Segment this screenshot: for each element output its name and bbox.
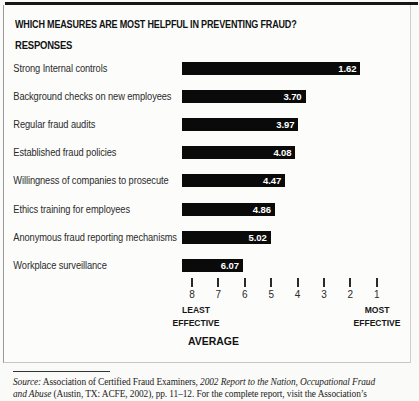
bar: 3.97 [182, 118, 298, 131]
bar-row: Anonymous fraud reporting mechanisms5.02 [4, 223, 410, 251]
source-text-1: Association of Certified Fraud Examiners… [43, 377, 198, 387]
bar: 3.70 [182, 90, 306, 103]
bar-value-label: 4.08 [273, 146, 291, 159]
footnote-rule [13, 371, 110, 372]
bar-category-label: Workplace surveillance [4, 260, 170, 271]
bar-row: Ethics training for employees4.86 [4, 195, 410, 223]
bar-rows: Strong Internal controls1.62Background c… [4, 54, 410, 280]
source-label: Source: [13, 377, 41, 387]
bar-category-label: Anonymous fraud reporting mechanisms [4, 232, 170, 243]
bar-track: 3.97 [182, 118, 410, 131]
axis-tick-label: 2 [348, 289, 354, 300]
bar: 4.08 [182, 146, 295, 159]
bar: 1.62 [182, 62, 360, 75]
bar-row: Background checks on new employees3.70 [4, 82, 410, 110]
source-title-line2: and Abuse [13, 389, 51, 399]
bar-track: 1.62 [182, 62, 410, 75]
axis-tick-label: 4 [295, 289, 301, 300]
bar-row: Willingness of companies to prosecute4.4… [4, 167, 410, 195]
bar: 4.86 [182, 203, 275, 216]
chart-title: WHICH MEASURES ARE MOST HELPFUL IN PREVE… [15, 18, 297, 30]
axis-tick-label: 5 [268, 289, 274, 300]
bar-track: 6.07 [182, 259, 410, 272]
bar-value-label: 6.07 [221, 259, 239, 272]
bar-category-label: Willingness of companies to prosecute [4, 175, 170, 186]
bar-category-label: Strong Internal controls [4, 63, 170, 74]
bar-value-label: 1.62 [338, 62, 356, 75]
source-text-2: (Austin, TX: ACFE, 2002), pp. 11–12. For… [54, 389, 367, 399]
chart-frame: WHICH MEASURES ARE MOST HELPFUL IN PREVE… [3, 5, 411, 363]
bar-value-label: 5.02 [249, 231, 267, 244]
bar: 5.02 [182, 231, 271, 244]
bar-category-label: Established fraud policies [4, 147, 170, 158]
bar: 4.47 [182, 174, 285, 187]
axis-tick-label: 1 [374, 289, 380, 300]
bar-track: 4.47 [182, 174, 410, 187]
source-title-line1: 2002 Report to the Nation, Occupational … [200, 377, 375, 387]
bar-value-label: 3.70 [283, 90, 301, 103]
bar-row: Strong Internal controls1.62 [4, 54, 410, 82]
bar-value-label: 4.47 [263, 174, 281, 187]
axis-label-most-effective: MOST EFFECTIVE [351, 304, 402, 330]
scanned-figure-page: WHICH MEASURES ARE MOST HELPFUL IN PREVE… [0, 0, 419, 401]
bar-value-label: 3.97 [276, 118, 294, 131]
bar-category-label: Background checks on new employees [4, 91, 170, 102]
source-footer: Source: Association of Certified Fraud E… [13, 371, 413, 400]
bar-category-label: Ethics training for employees [4, 204, 170, 215]
bar-track: 4.08 [182, 146, 410, 159]
bar-row: Workplace surveillance6.07 [4, 251, 410, 279]
axis-tick-label: 6 [242, 289, 248, 300]
axis-label-least-effective: LEAST EFFECTIVE [170, 304, 221, 330]
axis-title-average: AVERAGE [188, 335, 239, 347]
bar-category-label: Regular fraud audits [4, 119, 170, 130]
bar-row: Regular fraud audits3.97 [4, 110, 410, 138]
bar-value-label: 4.86 [253, 203, 271, 216]
bar-row: Established fraud policies4.08 [4, 139, 410, 167]
bar-track: 5.02 [182, 231, 410, 244]
source-note: Source: Association of Certified Fraud E… [13, 376, 413, 400]
bar-track: 4.86 [182, 203, 410, 216]
axis-tick-label: 8 [189, 289, 195, 300]
bar-track: 3.70 [182, 90, 410, 103]
axis-tick-label: 3 [321, 289, 327, 300]
axis-tick-label: 7 [216, 289, 222, 300]
bar: 6.07 [182, 259, 243, 272]
chart-subtitle: RESPONSES [15, 39, 72, 51]
